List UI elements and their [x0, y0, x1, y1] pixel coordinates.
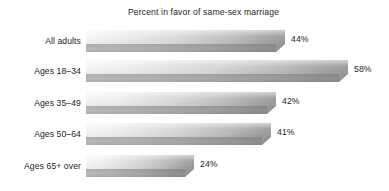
- bar-end-bevel: [276, 44, 285, 52]
- bar: [86, 155, 194, 177]
- value-label: 24%: [200, 159, 218, 169]
- bar-top-face: [86, 123, 271, 137]
- category-label: Ages 35–49: [0, 98, 81, 108]
- bar-row: Ages 65+ over 24%: [0, 154, 389, 184]
- bar-row: Ages 50–64 41%: [0, 122, 389, 152]
- category-label: Ages 50–64: [0, 129, 81, 139]
- bar-front-face: [86, 74, 339, 82]
- value-label: 42%: [282, 96, 300, 106]
- bar-front-face: [86, 137, 262, 145]
- bar-top-face: [86, 60, 348, 74]
- bar-front-face: [86, 44, 276, 52]
- bar-front-face: [86, 169, 185, 177]
- bar-top-face: [86, 155, 194, 169]
- bar-end-bevel: [267, 106, 276, 114]
- bar-top-face: [86, 30, 285, 44]
- chart-title: Percent in favor of same-sex marriage: [0, 7, 389, 17]
- bar-end-bevel: [339, 74, 348, 82]
- value-label: 58%: [354, 64, 372, 74]
- bar-chart: Percent in favor of same-sex marriage Al…: [0, 0, 389, 191]
- category-label: All adults: [0, 36, 81, 46]
- bar-row: All adults 44%: [0, 29, 389, 59]
- bar-row: Ages 35–49 42%: [0, 91, 389, 121]
- bar: [86, 92, 276, 114]
- bar-row: Ages 18–34 58%: [0, 59, 389, 89]
- value-label: 41%: [277, 127, 295, 137]
- category-label: Ages 18–34: [0, 66, 81, 76]
- bar: [86, 123, 271, 145]
- value-label: 44%: [291, 34, 309, 44]
- bar-top-face: [86, 92, 276, 106]
- bar-end-bevel: [262, 137, 271, 145]
- bar-end-bevel: [185, 169, 194, 177]
- category-label: Ages 65+ over: [0, 161, 81, 171]
- bar-front-face: [86, 106, 267, 114]
- bar: [86, 30, 285, 52]
- bar: [86, 60, 348, 82]
